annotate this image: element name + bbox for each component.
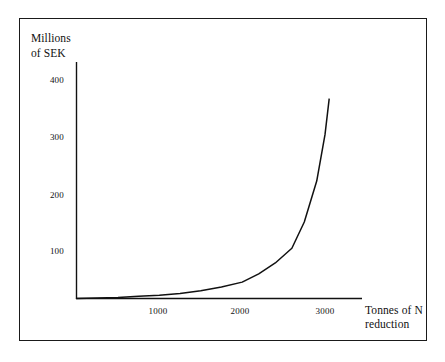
- x-tick-label-1000: 1000: [138, 306, 178, 316]
- y-tick-label-100: 100: [38, 246, 64, 256]
- y-axis-label-line-2: of SEK: [31, 46, 66, 60]
- x-tick-label-3000: 3000: [305, 306, 345, 316]
- x-tick-label-2000: 2000: [220, 306, 260, 316]
- x-axis-label-line-2: reduction: [365, 317, 409, 331]
- y-tick-label-200: 200: [38, 190, 64, 200]
- x-axis-label-line-1: Tonnes of N: [365, 303, 423, 317]
- chart-page: Millions of SEK Tonnes of N reduction 40…: [0, 0, 445, 362]
- y-tick-label-400: 400: [38, 75, 64, 85]
- data-series-line: [77, 99, 330, 298]
- y-tick-label-300: 300: [38, 132, 64, 142]
- y-axis-label-line-1: Millions: [31, 31, 71, 45]
